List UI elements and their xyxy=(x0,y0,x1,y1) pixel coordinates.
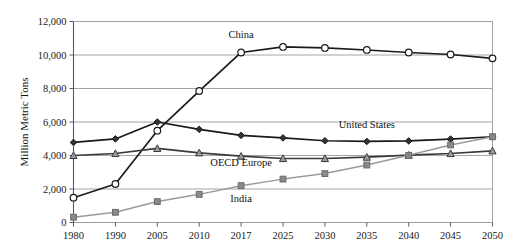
series-label-oecd-europe: OECD Europe xyxy=(210,157,272,168)
line-chart: 1980199020052010201720252030203520402045… xyxy=(0,0,517,252)
y-tick-label-8000: 8,000 xyxy=(43,83,67,94)
data-point-india-2035 xyxy=(364,162,370,168)
series-label-united-states: United States xyxy=(339,119,395,130)
chart-container: 1980199020052010201720252030203520402045… xyxy=(0,0,517,252)
y-tick-label-4000: 4,000 xyxy=(43,150,67,161)
data-point-china-2045 xyxy=(447,51,454,58)
x-tick-label-2035: 2035 xyxy=(356,230,377,241)
data-point-china-2040 xyxy=(405,49,412,56)
x-tick-label-2040: 2040 xyxy=(398,230,419,241)
y-axis-title-text: Million Metric Tons xyxy=(18,78,30,167)
x-tick-label-2030: 2030 xyxy=(314,230,335,241)
data-point-india-2030 xyxy=(322,171,328,177)
data-point-china-2025 xyxy=(280,44,287,51)
y-tick-label-2000: 2,000 xyxy=(43,184,67,195)
data-point-india-2005 xyxy=(154,199,160,205)
x-tick-label-1980: 1980 xyxy=(63,230,84,241)
y-tick-label-0: 0 xyxy=(61,217,66,228)
x-tick-label-1990: 1990 xyxy=(105,230,126,241)
data-point-china-2050 xyxy=(489,55,496,62)
y-axis-title: Million Metric Tons xyxy=(18,78,30,167)
x-tick-label-2045: 2045 xyxy=(440,230,461,241)
x-tick-label-2050: 2050 xyxy=(482,230,503,241)
data-point-china-2005 xyxy=(154,127,161,134)
data-point-china-2030 xyxy=(322,45,329,52)
data-point-india-2040 xyxy=(406,152,412,158)
data-point-china-2035 xyxy=(364,47,371,54)
y-tick-label-12000: 12,000 xyxy=(38,16,67,27)
x-tick-label-2017: 2017 xyxy=(231,230,252,241)
data-point-india-2050 xyxy=(490,134,496,140)
data-point-china-2017 xyxy=(238,49,245,56)
y-tick-label-6000: 6,000 xyxy=(43,117,67,128)
data-point-india-2017 xyxy=(238,183,244,189)
data-point-china-2010 xyxy=(196,88,203,95)
x-tick-label-2005: 2005 xyxy=(147,230,168,241)
x-tick-label-2010: 2010 xyxy=(189,230,210,241)
data-point-china-1990 xyxy=(112,181,119,188)
x-tick-label-2025: 2025 xyxy=(273,230,294,241)
plot-background xyxy=(0,0,517,252)
data-point-india-2010 xyxy=(196,191,202,197)
data-point-india-2025 xyxy=(280,176,286,182)
data-point-india-2045 xyxy=(448,142,454,148)
series-label-india: India xyxy=(230,193,252,204)
y-tick-label-10000: 10,000 xyxy=(38,50,67,61)
data-point-india-1990 xyxy=(113,209,119,215)
data-point-india-1980 xyxy=(71,214,77,220)
data-point-china-1980 xyxy=(70,194,77,201)
series-label-china: China xyxy=(229,29,254,40)
